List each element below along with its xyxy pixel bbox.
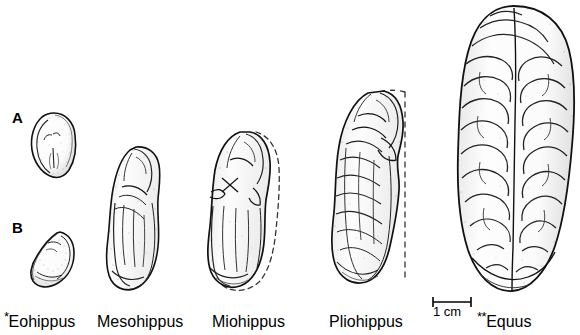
taxon-label-pliohippus: Pliohippus [329, 310, 403, 330]
specimen-miohippus [200, 126, 296, 296]
pliohippus-endocast [332, 90, 405, 283]
mesohippus-endocast [106, 147, 159, 290]
specimen-eohippus [24, 108, 84, 294]
pliohippus-name: Pliohippus [329, 313, 403, 330]
panel-letter-b: B [12, 220, 23, 235]
taxon-label-miohippus: Miohippus [212, 310, 285, 330]
miohippus-name: Miohippus [212, 313, 285, 330]
panel-letter-a: A [12, 110, 23, 125]
specimen-equus [450, 2, 580, 298]
specimen-pliohippus [326, 86, 432, 296]
taxon-label-equus: **Equus [477, 310, 532, 330]
taxon-label-eohippus: *Eohippus [4, 310, 75, 330]
equus-endocast [458, 6, 575, 291]
taxon-label-mesohippus: Mesohippus [97, 310, 183, 330]
scale-bar-caption: 1 cm [433, 305, 461, 318]
brain-evolution-figure: A B [0, 0, 580, 335]
equus-marker: ** [477, 309, 486, 324]
eohippus-dorsal-view [31, 113, 75, 177]
mesohippus-name: Mesohippus [97, 313, 183, 330]
specimen-mesohippus [102, 143, 178, 295]
eohippus-name: Eohippus [9, 313, 76, 330]
eohippus-lateral-view [31, 232, 74, 287]
miohippus-endocast [208, 132, 279, 290]
equus-name: Equus [486, 313, 531, 330]
